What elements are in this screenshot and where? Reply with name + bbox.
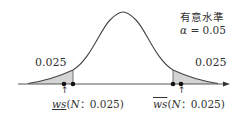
upper-critical-arrow-icon: ↑ <box>178 85 186 95</box>
lower-ws-symbol: ws <box>52 98 66 110</box>
alpha-value: = 0.05 <box>187 24 226 36</box>
lower-critical-label: ws(N：0.025) <box>52 96 124 111</box>
upper-args-n: N <box>172 98 181 110</box>
right-boundary-dot <box>171 82 176 87</box>
upper-args-rest: ：0.025) <box>181 98 225 110</box>
upper-ws-symbol: ws <box>153 98 167 110</box>
upper-critical-label: ws(N：0.025) <box>153 96 225 111</box>
lower-args-rest: ：0.025) <box>80 98 124 110</box>
alpha-label: α = 0.05 <box>180 24 226 36</box>
lower-args-n: N <box>71 98 80 110</box>
left-tail-area-label: 0.025 <box>35 56 67 69</box>
significance-heading: 有意水準 <box>180 9 224 24</box>
axis-arrowhead <box>223 82 230 87</box>
lower-critical-arrow-icon: ↑ <box>61 85 69 95</box>
right-tail-area-label: 0.025 <box>195 56 227 69</box>
left-boundary-dot <box>71 82 76 87</box>
